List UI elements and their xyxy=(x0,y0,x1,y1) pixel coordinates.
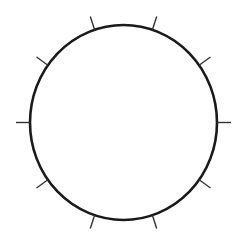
tick-mark xyxy=(152,17,156,30)
tick-mark xyxy=(90,215,94,228)
tick-mark xyxy=(37,180,48,188)
circle-outline xyxy=(30,25,217,220)
tick-mark xyxy=(90,17,94,30)
tick-mark xyxy=(199,180,210,188)
tick-mark xyxy=(37,57,48,65)
tick-marks xyxy=(16,17,231,229)
tick-mark xyxy=(199,57,210,65)
tick-mark xyxy=(152,215,156,228)
circle-diagram xyxy=(0,0,240,243)
